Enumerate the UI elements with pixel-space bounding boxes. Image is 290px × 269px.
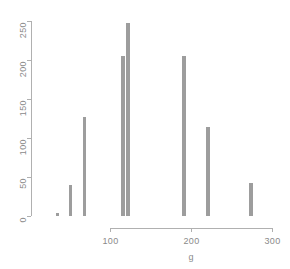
y-tick-label-200: 200 — [18, 61, 28, 89]
x-tick-label-100: 100 — [95, 236, 126, 246]
bar-5 — [182, 56, 186, 216]
x-tick-100 — [110, 228, 111, 232]
bar-4 — [126, 23, 130, 216]
y-tick-label-250: 250 — [18, 22, 28, 50]
x-tick-label-300: 300 — [257, 236, 288, 246]
chart-plot-area: 250 200 150 100 50 0 100 200 300 g — [0, 0, 290, 269]
x-axis-title: g — [175, 252, 207, 262]
y-tick-label-100: 100 — [18, 139, 28, 167]
bar-3 — [121, 56, 125, 216]
y-tick-label-150: 150 — [18, 100, 28, 128]
bar-6 — [206, 127, 210, 216]
bar-7 — [249, 183, 253, 216]
bar-0 — [56, 213, 59, 216]
x-tick-200 — [191, 228, 192, 232]
bar-1 — [69, 185, 72, 216]
y-tick-label-0: 0 — [18, 217, 28, 245]
x-tick-300 — [272, 228, 273, 232]
y-tick-label-50: 50 — [18, 178, 28, 206]
y-axis-line — [31, 21, 32, 216]
x-tick-label-200: 200 — [176, 236, 207, 246]
bar-2 — [83, 117, 86, 216]
